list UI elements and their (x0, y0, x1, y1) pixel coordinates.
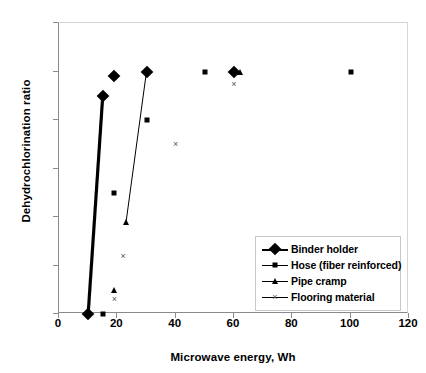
x-tick-label: 80 (261, 318, 321, 330)
x-tick-label: 60 (203, 318, 263, 330)
x-tick-label: 120 (378, 318, 426, 330)
legend-item[interactable]: Pipe cramp (262, 273, 395, 289)
legend-item[interactable]: Hose (fiber reinforced) (262, 257, 395, 273)
legend-line (262, 281, 288, 282)
legend-label: Pipe cramp (291, 275, 347, 287)
y-axis-title: Dehydrochlorination ratio (20, 41, 32, 261)
legend-line (262, 249, 288, 251)
legend[interactable]: Binder holderHose (fiber reinforced)Pipe… (255, 236, 401, 311)
x-tick-label: 0 (28, 318, 88, 330)
legend-line (262, 297, 288, 298)
chart-figure: Dehydrochlorination ratio Microwave ener… (0, 0, 426, 373)
legend-key: × (262, 290, 288, 304)
plot-area: ×××× Binder holderHose (fiber reinforced… (58, 22, 408, 313)
x-tick-label: 100 (320, 318, 380, 330)
legend-line (262, 265, 288, 266)
legend-item[interactable]: Binder holder (262, 241, 395, 257)
legend-label: Binder holder (291, 243, 358, 255)
legend-label: Hose (fiber reinforced) (291, 259, 401, 271)
legend-key (262, 242, 288, 256)
legend-item[interactable]: ×Flooring material (262, 289, 395, 305)
x-tick-label: 40 (145, 318, 205, 330)
series-line (88, 96, 103, 314)
series-line (126, 72, 146, 222)
x-tick-label: 20 (86, 318, 146, 330)
x-axis-title: Microwave energy, Wh (58, 351, 408, 363)
legend-label: Flooring material (291, 291, 374, 303)
legend-key (262, 258, 288, 272)
legend-key (262, 274, 288, 288)
